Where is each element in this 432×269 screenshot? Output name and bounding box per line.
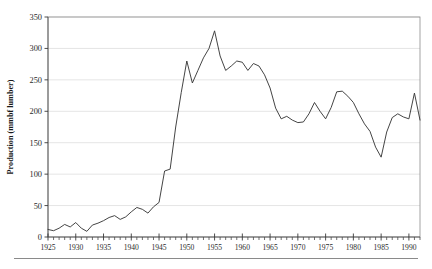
x-tick-label: 1925: [40, 243, 55, 252]
plot-background: [48, 17, 420, 237]
figure-container: 050100150200250300350 192519301935194019…: [0, 0, 432, 269]
x-tick-label: 1980: [346, 243, 361, 252]
y-axis-ticks: 050100150200250300350: [29, 13, 48, 242]
y-tick-label: 0: [38, 233, 42, 242]
x-axis-tick-labels: 1925193019351940194519501955196019651970…: [40, 243, 416, 252]
x-tick-label: 1945: [151, 243, 166, 252]
x-tick-label: 1930: [68, 243, 83, 252]
x-tick-label: 1960: [235, 243, 250, 252]
x-tick-label: 1935: [96, 243, 111, 252]
y-tick-label: 250: [29, 76, 42, 85]
production-line-chart: 050100150200250300350 192519301935194019…: [0, 0, 432, 269]
x-tick-label: 1965: [262, 243, 277, 252]
y-tick-label: 100: [29, 170, 42, 179]
y-axis-title: Production (mmbf lumber): [6, 79, 15, 174]
x-tick-label: 1990: [401, 243, 416, 252]
y-tick-label: 350: [29, 13, 42, 22]
x-tick-label: 1975: [318, 243, 333, 252]
x-tick-label: 1940: [124, 243, 139, 252]
x-tick-label: 1955: [207, 243, 222, 252]
x-tick-label: 1985: [374, 243, 389, 252]
y-tick-label: 150: [29, 139, 42, 148]
x-tick-label: 1970: [290, 243, 305, 252]
y-tick-label: 200: [29, 107, 42, 116]
y-tick-label: 50: [34, 202, 42, 211]
y-tick-label: 300: [29, 44, 42, 53]
x-tick-label: 1950: [179, 243, 194, 252]
footer-divider: [14, 258, 418, 259]
